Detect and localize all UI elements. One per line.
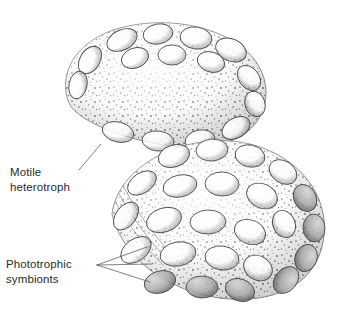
illustration-figure: Motile heterotroph Phototrophic symbiont… — [0, 0, 340, 319]
organism-lower-heterotroph — [108, 138, 326, 306]
illustration-canvas: Motile heterotroph Phototrophic symbiont… — [0, 0, 340, 319]
label-motile-heterotroph-line2: heterotroph — [10, 181, 70, 193]
label-phototrophic-symbionts-line1: Phototrophic — [6, 258, 72, 270]
symbiont — [158, 45, 186, 65]
label-phototrophic-symbionts: Phototrophic symbionts — [6, 258, 72, 285]
organism-upper-heterotroph — [66, 22, 269, 153]
label-motile-heterotroph-line1: Motile — [10, 166, 41, 178]
leader-line-motile-heterotroph — [79, 144, 101, 170]
label-phototrophic-symbionts-line2: symbionts — [6, 273, 59, 285]
label-motile-heterotroph: Motile heterotroph — [10, 166, 70, 193]
